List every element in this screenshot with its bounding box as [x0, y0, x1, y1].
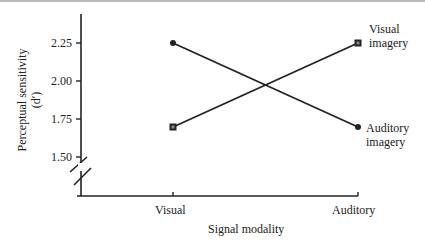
annotation-line: Visual [369, 22, 408, 36]
y-tick-label-1.75: 1.75 [32, 112, 72, 127]
y-tick-label-1.50: 1.50 [32, 150, 72, 165]
x-tick-label-visual: Visual [155, 203, 186, 217]
annotation-auditory-imagery: Auditory imagery [366, 121, 409, 149]
x-axis-label: Signal modality [208, 222, 284, 236]
y-axis-label-text: Perceptual sensitivity [15, 25, 29, 175]
annotation-line: imagery [366, 135, 409, 149]
annotation-line: imagery [369, 36, 408, 50]
marker-auditory-auditory [355, 124, 361, 130]
marker-auditory-visual [170, 40, 176, 46]
y-tick-label-2.00: 2.00 [32, 74, 72, 89]
x-tick-label-auditory: Auditory [332, 203, 375, 217]
annotation-visual-imagery: Visual imagery [369, 22, 408, 50]
y-tick-label-2.25: 2.25 [32, 36, 72, 51]
annotation-line: Auditory [366, 121, 409, 135]
